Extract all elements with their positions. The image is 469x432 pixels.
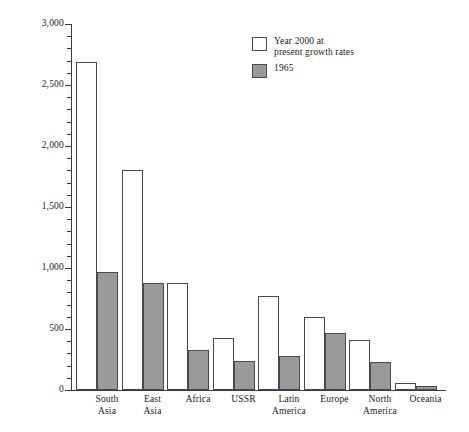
legend-item-year-2000: Year 2000 at present growth rates	[252, 36, 354, 58]
bar-1965	[97, 272, 118, 390]
y-tick-label: 2,500	[18, 80, 64, 90]
bar-1965	[188, 350, 209, 390]
legend-label-year-2000: Year 2000 at present growth rates	[274, 36, 354, 58]
bar-group	[213, 24, 255, 390]
y-tick-major	[65, 24, 72, 25]
y-tick-major	[65, 390, 72, 391]
x-axis-line	[71, 390, 446, 391]
bar-year-2000	[304, 317, 325, 390]
y-tick-major	[65, 146, 72, 147]
bar-group	[76, 24, 118, 390]
bar-year-2000	[76, 62, 97, 390]
chart-legend: Year 2000 at present growth rates 1965	[252, 36, 354, 83]
y-tick-label: 1,000	[18, 263, 64, 273]
y-tick-label: 0	[18, 385, 64, 395]
y-tick-major	[65, 268, 72, 269]
bar-1965	[234, 361, 255, 390]
x-category-label: Oceania	[392, 394, 460, 406]
bar-1965	[143, 283, 164, 390]
bar-group	[395, 24, 437, 390]
y-tick-major	[65, 85, 72, 86]
bar-year-2000	[349, 340, 370, 390]
legend-label-1965: 1965	[274, 63, 294, 74]
bar-1965	[325, 333, 346, 390]
y-tick-major	[65, 207, 72, 208]
bar-1965	[279, 356, 300, 390]
y-tick-label: 500	[18, 324, 64, 334]
bar-year-2000	[213, 338, 234, 390]
y-tick-label: 2,000	[18, 141, 64, 151]
legend-swatch-year-2000	[252, 37, 267, 51]
bar-year-2000	[395, 383, 416, 390]
bar-1965	[416, 386, 437, 390]
legend-swatch-1965	[252, 64, 267, 78]
y-tick-label: 1,500	[18, 202, 64, 212]
y-tick-major	[65, 329, 72, 330]
bar-group	[349, 24, 391, 390]
bar-1965	[370, 362, 391, 390]
bar-year-2000	[258, 296, 279, 390]
bar-year-2000	[122, 170, 143, 390]
y-tick-label: 3,000	[18, 19, 64, 29]
population-bar-chart: Millions 3,0002,5002,0001,5001,0005000 S…	[0, 0, 469, 432]
bar-group	[167, 24, 209, 390]
bar-group	[122, 24, 164, 390]
bar-year-2000	[167, 283, 188, 390]
legend-item-1965: 1965	[252, 63, 354, 78]
